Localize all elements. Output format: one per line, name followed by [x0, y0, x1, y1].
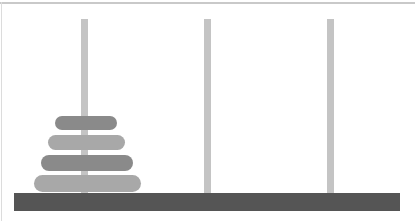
frame-left-rule: [1, 2, 2, 221]
base-bar: [14, 193, 400, 211]
tower-of-hanoi-canvas: [0, 0, 415, 221]
disk-1-smallest[interactable]: [55, 116, 117, 130]
frame-top-rule: [0, 2, 415, 4]
disk-2[interactable]: [48, 135, 125, 150]
disk-4-largest[interactable]: [34, 175, 141, 192]
disk-3[interactable]: [41, 155, 133, 171]
peg-2[interactable]: [204, 19, 211, 193]
peg-3[interactable]: [327, 19, 334, 193]
